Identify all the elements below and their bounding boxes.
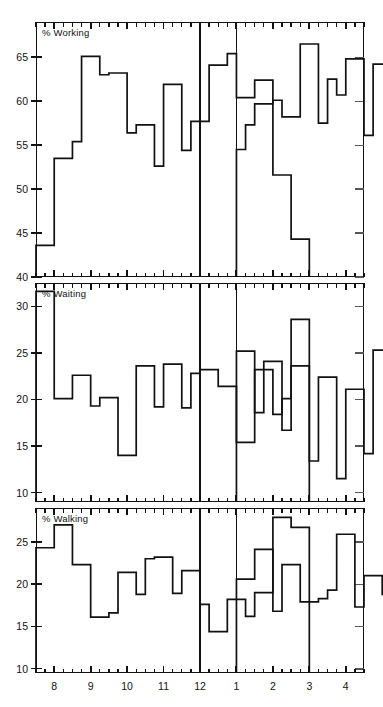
x-tick-label: 8 xyxy=(44,680,64,692)
x-tick-label: 9 xyxy=(81,680,101,692)
x-tick-label: 3 xyxy=(299,680,319,692)
x-tick-label: 2 xyxy=(263,680,283,692)
step-series-path xyxy=(36,517,309,673)
x-tick-label: 1 xyxy=(226,680,246,692)
x-tick-label: 12 xyxy=(190,680,210,692)
x-tick-label: 11 xyxy=(154,680,174,692)
chart-figure: % Working 404550556065 % Waiting 1015202… xyxy=(0,0,383,707)
x-tick-label: 4 xyxy=(336,680,356,692)
series-walking xyxy=(0,0,383,707)
x-tick-label: 10 xyxy=(117,680,137,692)
